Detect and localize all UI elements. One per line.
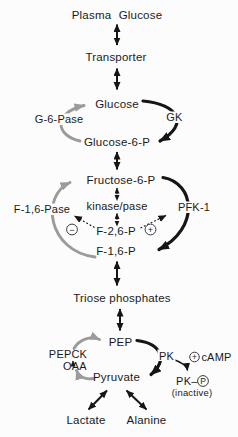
camp-plus-sign: + [192,352,197,362]
pk-inactivation-arrow [174,360,188,371]
phosphate-p-label: P [200,376,206,386]
pk-arc-arrow [137,341,160,375]
pyruvate-lactate-double-arrow [89,391,108,410]
oaa-label: OAA [63,360,87,372]
plasma-glucose-label: Plasma Glucose [72,9,163,21]
kinase-pase-label: kinase/pase [87,200,148,212]
f16pase-arc-arrow [52,183,95,258]
f16pase-label: F-1,6-Pase [14,203,70,215]
triose-phosphates-label: Triose phosphates [73,292,171,304]
gk-label: GK [166,111,183,123]
pepck-label: PEPCK [49,348,88,360]
glucose-label: Glucose [95,98,139,110]
f-2-6-p-label: F-2,6-P [96,225,136,237]
glucose-6-p-label: Glucose-6-P [84,136,150,148]
f-1-6-p-label: F-1,6-P [96,245,136,257]
camp-label: cAMP [201,351,231,363]
glycolysis-gluconeogenesis-diagram: Plasma Glucose Transporter Glucose Gluco… [0,0,238,437]
oaa-pep-arc-arrow [74,338,100,349]
inactive-label: (inactive) [172,387,213,398]
metabolic-pathway-figure: Plasma Glucose Transporter Glucose Gluco… [0,0,238,437]
g6pase-label: G-6-Pase [35,113,84,125]
alanine-label: Alanine [127,414,167,426]
activation-plus-sign: + [148,225,153,235]
inhibition-minus-sign: − [69,225,74,235]
pep-label: PEP [109,336,133,348]
pk-p-label: PK– [176,375,198,387]
pyruvate-alanine-double-arrow [127,391,147,410]
pyruvate-oaa-arc-arrow [77,371,94,379]
transporter-label: Transporter [85,51,146,63]
pyruvate-label: Pyruvate [93,371,140,383]
pk-label: PK [159,350,175,362]
fructose-6-p-label: Fructose-6-P [87,174,156,186]
f26p-inhibits-f16pase-arrow [75,216,95,228]
lactate-label: Lactate [66,414,105,426]
pfk1-arc-arrow [159,178,188,250]
pfk1-label: PFK-1 [178,201,210,213]
